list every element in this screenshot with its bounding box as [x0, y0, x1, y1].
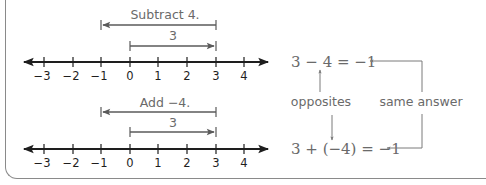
tick-labels: −3 −2 −1 0 1 2 3 4 — [34, 156, 248, 170]
move-label-3: 3 — [169, 28, 177, 43]
tick-label: 3 — [212, 156, 219, 170]
tick-label: 3 — [212, 69, 219, 83]
equation-addition: 3 + (−4) = −1 — [291, 140, 401, 158]
move-label-3: 3 — [169, 115, 177, 130]
tick-label: 4 — [240, 156, 247, 170]
tick-label: −1 — [91, 156, 108, 170]
tick-label: −3 — [34, 156, 51, 170]
tick-label: 0 — [126, 156, 133, 170]
number-line-top: Subtract 4. 3 −3 — [24, 7, 268, 83]
tick-label: 2 — [183, 156, 190, 170]
number-line-bottom: Add −4. 3 −3 −2 −1 0 — [24, 95, 268, 170]
equation-subtraction: 3 − 4 = −1 — [291, 53, 376, 71]
same-answer-top-arrow — [370, 61, 422, 92]
caption-subtract-4: Subtract 4. — [130, 7, 199, 22]
tick-label: 2 — [183, 69, 190, 83]
label-same-answer: same answer — [379, 94, 463, 109]
tick-label: −2 — [63, 156, 80, 170]
tick-label: −1 — [91, 69, 108, 83]
label-opposites: opposites — [291, 94, 351, 109]
caption-add-negative-4: Add −4. — [140, 95, 191, 110]
tick-label: 1 — [154, 69, 161, 83]
equations-panel: 3 − 4 = −1 3 + (−4) = −1 opposites same … — [291, 53, 464, 158]
tick-label: 0 — [126, 69, 133, 83]
tick-label: −2 — [63, 69, 80, 83]
tick-label: 4 — [240, 69, 247, 83]
tick-labels: −3 −2 −1 0 1 2 3 4 — [34, 69, 248, 83]
tick-label: −3 — [34, 69, 51, 83]
tick-label: 1 — [154, 156, 161, 170]
